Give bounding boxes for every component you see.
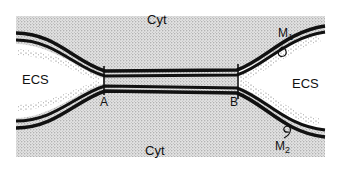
gap-junction-diagram: Cyt Cyt ECS ECS A B M1 M2 (0, 0, 340, 170)
label-point-b: B (230, 96, 238, 108)
label-ecs-left: ECS (22, 73, 49, 86)
label-m1-subscript: 1 (288, 32, 293, 42)
label-membrane-2: M2 (275, 140, 290, 155)
label-m1-text: M (278, 26, 288, 40)
label-m2-text: M (275, 139, 285, 153)
label-membrane-1: M1 (278, 27, 293, 42)
label-cyt-top: Cyt (147, 13, 167, 26)
label-m2-subscript: 2 (285, 145, 290, 155)
label-point-a: A (100, 96, 108, 108)
label-cyt-bottom: Cyt (145, 144, 165, 157)
label-ecs-right: ECS (292, 77, 319, 90)
